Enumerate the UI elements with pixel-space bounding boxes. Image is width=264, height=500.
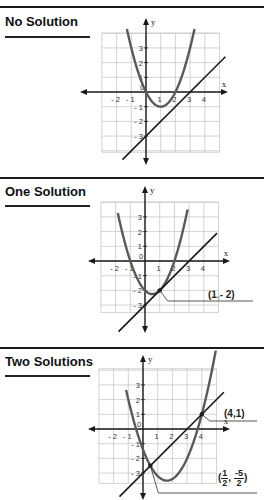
svg-text:- 2: - 2: [110, 264, 119, 273]
svg-text:1: 1: [136, 410, 140, 419]
x-axis-left-arrow-icon: [88, 426, 95, 432]
graph-1: xy- 2- 101234321- 1- 2- 3: [80, 17, 228, 165]
y-axis-up-arrow-icon: [140, 355, 146, 362]
svg-text:3: 3: [187, 95, 191, 104]
svg-text:3: 3: [136, 381, 140, 390]
x-axis-left-arrow-icon: [80, 89, 87, 95]
y-axis-label: y: [148, 354, 153, 364]
parabola-curve: [118, 209, 188, 294]
svg-text:1: 1: [157, 264, 161, 273]
svg-text:- 2: - 2: [108, 432, 117, 441]
svg-text:2: 2: [139, 59, 143, 68]
grid: [102, 33, 220, 152]
svg-text:3: 3: [138, 213, 142, 222]
svg-text:3: 3: [184, 432, 188, 441]
svg-text:2: 2: [169, 432, 173, 441]
svg-text:3: 3: [139, 44, 143, 53]
svg-text:- 2: - 2: [133, 286, 142, 295]
svg-text:1: 1: [158, 95, 162, 104]
y-axis-label: y: [151, 17, 156, 27]
svg-text:0: 0: [139, 252, 143, 261]
y-axis-down-arrow-icon: [140, 493, 146, 500]
x-axis-label: x: [224, 248, 229, 258]
y-axis-down-arrow-icon: [142, 326, 148, 333]
svg-text:- 2: - 2: [134, 117, 143, 126]
svg-text:2: 2: [136, 396, 140, 405]
leader-line: [202, 414, 257, 421]
leader-line: [150, 466, 257, 493]
graph-3: xy- 2- 101234321- 1- 2- 3: [88, 351, 257, 500]
svg-text:2: 2: [138, 228, 142, 237]
linear-line: [119, 233, 217, 331]
x-axis-right-arrow-icon: [221, 89, 228, 95]
x-axis-label: x: [222, 79, 227, 89]
x-axis-right-arrow-icon: [223, 426, 230, 432]
svg-text:3: 3: [186, 264, 190, 273]
svg-text:4: 4: [202, 95, 206, 104]
svg-text:- 2: - 2: [131, 454, 140, 463]
axes: [88, 186, 230, 333]
y-axis-up-arrow-icon: [142, 186, 148, 193]
graphs-canvas: xy- 2- 101234321- 1- 2- 3xy- 2- 10123432…: [0, 0, 264, 500]
svg-text:1: 1: [138, 242, 142, 251]
x-axis-left-arrow-icon: [88, 258, 95, 264]
y-axis-down-arrow-icon: [143, 158, 149, 165]
y-axis-label: y: [150, 185, 155, 195]
leader-line: [160, 290, 253, 301]
y-axis-up-arrow-icon: [143, 18, 149, 25]
svg-text:- 1: - 1: [134, 103, 143, 112]
svg-text:0: 0: [137, 420, 141, 429]
svg-text:4: 4: [201, 264, 205, 273]
svg-text:4: 4: [199, 432, 203, 441]
svg-text:1: 1: [155, 432, 159, 441]
x-axis-right-arrow-icon: [223, 258, 230, 264]
graph-2: xy- 2- 101234321- 1- 2- 3: [88, 185, 253, 333]
svg-text:- 2: - 2: [111, 95, 120, 104]
